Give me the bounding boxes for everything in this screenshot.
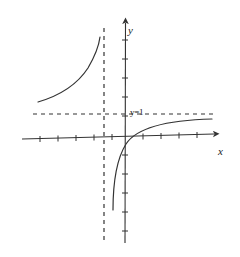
x-axis	[22, 132, 214, 142]
plot-canvas	[0, 0, 240, 257]
function-graph-figure: y x y=1	[0, 0, 240, 257]
y-axis-line	[125, 23, 126, 243]
curve-left-branch	[38, 37, 100, 102]
y-axis	[122, 23, 128, 243]
x-axis-line	[22, 134, 214, 139]
y-axis-label: y	[128, 25, 133, 36]
x-axis-label: x	[218, 146, 223, 157]
horizontal-asymptote-label: y=1	[130, 108, 143, 117]
